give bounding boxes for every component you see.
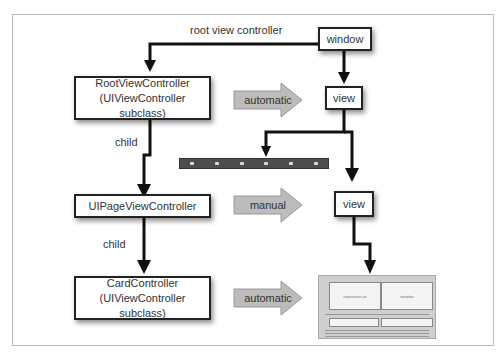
card-right-pane: window [381, 282, 433, 310]
root-view-controller-node: RootViewController (UIViewController sub… [74, 76, 211, 120]
transition-arrow-automatic-1: automatic [233, 82, 303, 118]
card-preview-image: expansion as window [318, 275, 436, 339]
transition-arrow-automatic-2: automatic [233, 280, 303, 316]
card-text-line [325, 336, 429, 337]
card-text-line [325, 330, 429, 331]
page-view-controller-node: UIPageViewController [74, 194, 211, 218]
card-vc-line2: (UIViewController subclass) [76, 291, 209, 321]
card-right-pane-text: window [400, 294, 413, 299]
root-vc-line2: (UIViewController subclass) [76, 91, 209, 121]
toolbar-image [179, 158, 329, 169]
card-controller-node: CardController (UIViewController subclas… [74, 276, 211, 320]
view-node-mid-label: view [343, 197, 365, 212]
transition-arrow-manual-label: manual [233, 187, 303, 223]
transition-arrow-manual: manual [233, 187, 303, 223]
edge-label-root-view-controller: root view controller [190, 24, 282, 36]
folder-icon [240, 162, 244, 165]
card-text-line [325, 314, 429, 315]
window-node: window [318, 27, 372, 51]
card-bottom-right-field [381, 318, 433, 327]
edge-label-child-2: child [103, 238, 126, 250]
transition-arrow-automatic-2-label: automatic [233, 280, 303, 316]
view-node-top-label: view [333, 91, 355, 106]
card-vc-line1: CardController [107, 276, 179, 291]
edge-label-child-1: child [115, 136, 138, 148]
card-text-line [325, 333, 429, 334]
window-node-label: window [327, 32, 364, 47]
search-icon [264, 162, 268, 165]
view-node-top: view [325, 86, 363, 110]
wrench-icon [190, 162, 194, 165]
info-icon [314, 162, 318, 165]
card-left-pane-text: expansion as [343, 294, 367, 299]
view-node-mid: view [334, 191, 374, 217]
root-vc-line1: RootViewController [95, 76, 190, 91]
card-bottom-left-field [329, 318, 379, 327]
card-left-pane: expansion as [329, 282, 381, 310]
page-vc-label: UIPageViewController [88, 199, 196, 214]
transition-arrow-automatic-1-label: automatic [233, 82, 303, 118]
pin-icon [289, 162, 293, 165]
speech-bubble-icon [215, 162, 219, 165]
